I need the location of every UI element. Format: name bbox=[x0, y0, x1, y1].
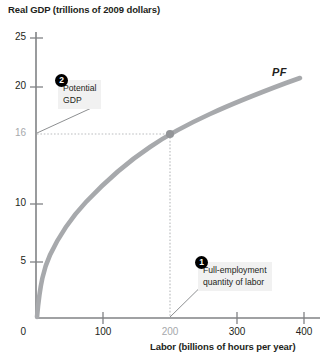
y-tick-label-25: 25 bbox=[4, 31, 26, 42]
y-tick-label-20: 20 bbox=[4, 80, 26, 91]
annotation-badge-2: 2 bbox=[55, 74, 68, 87]
y-tick-label-0: 0 bbox=[4, 326, 26, 337]
x-tick-label-200: 200 bbox=[155, 326, 185, 337]
chart-container: Real GDP (trillions of 2009 dollars) Lab… bbox=[0, 0, 326, 361]
y-tick-label-10: 10 bbox=[4, 197, 26, 208]
annotation-potential-gdp-line1: Potential bbox=[63, 83, 96, 93]
full-employment-point-marker bbox=[166, 130, 174, 138]
y-tick-label-16: 16 bbox=[4, 127, 26, 138]
y-axis-title: Real GDP (trillions of 2009 dollars) bbox=[8, 4, 160, 15]
annotation-badge-1: 1 bbox=[195, 256, 208, 269]
annotation-potential-gdp-line2: GDP bbox=[63, 95, 82, 105]
annotation-full-employment: Full-employment quantity of labor bbox=[198, 262, 272, 291]
x-axis-title: Labor (billions of hours per year) bbox=[150, 341, 295, 352]
x-tick-label-100: 100 bbox=[88, 326, 118, 337]
annotation-full-employment-line2: quantity of labor bbox=[203, 277, 264, 287]
annotation-full-employment-line1: Full-employment bbox=[203, 265, 267, 275]
x-tick-label-400: 400 bbox=[289, 326, 319, 337]
x-tick-label-300: 300 bbox=[222, 326, 252, 337]
chart-plot-area bbox=[0, 0, 326, 361]
potential-gdp-leader-line bbox=[37, 105, 98, 133]
y-tick-label-5: 5 bbox=[4, 255, 26, 266]
curve-label-pf: PF bbox=[272, 66, 287, 78]
